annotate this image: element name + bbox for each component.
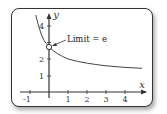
y-axis-label: y (52, 9, 59, 20)
chart-plot: -1 1 2 3 4 1 2 4 x y Limit = e (0, 0, 167, 114)
x-tick-label: -1 (23, 95, 31, 104)
x-axis-arrow-icon (141, 90, 147, 95)
y-axis-arrow-icon (47, 13, 52, 19)
open-circle-icon (46, 44, 51, 49)
annotation-arrowhead-icon (52, 43, 57, 46)
x-tick-label: 2 (84, 95, 89, 104)
x-axis-label: x (139, 79, 145, 90)
x-tick-label: 1 (65, 95, 70, 104)
x-tick-label: 4 (122, 95, 127, 104)
limit-annotation: Limit = e (67, 34, 107, 44)
y-tick-label: 2 (39, 55, 44, 64)
x-tick-label: 3 (103, 95, 108, 104)
y-tick-label: 1 (39, 72, 44, 81)
